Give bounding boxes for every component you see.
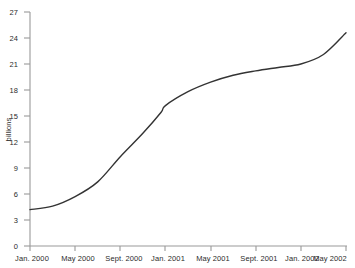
chart-plot-area [0,0,355,268]
x-axis-ticks [30,246,346,251]
x-tick-label-sept-2000: Sept. 2000 [105,254,142,263]
y-tick-label-9: 9 [2,164,18,173]
line-chart: 0 3 6 9 12 15 18 21 24 27 Jan. 2000 May … [0,0,355,268]
x-tick-label-jan-2001: Jan. 2001 [151,254,185,263]
y-axis-title: billions [4,105,13,155]
data-line-billions [30,33,346,210]
x-tick-label-may-2001: May 2001 [196,254,230,263]
y-tick-label-21: 21 [2,60,18,69]
y-tick-label-0: 0 [2,242,18,251]
x-tick-label-jan-2000: Jan. 2000 [15,254,49,263]
x-tick-label-may-2002: May 2002 [313,254,347,263]
x-tick-label-may-2000: May 2000 [61,254,95,263]
y-tick-label-24: 24 [2,34,18,43]
x-tick-label-sept-2001: Sept. 2001 [240,254,277,263]
y-tick-label-27: 27 [2,8,18,17]
y-tick-label-3: 3 [2,216,18,225]
axes [30,12,347,246]
y-tick-label-6: 6 [2,190,18,199]
y-axis-ticks [24,12,30,246]
y-tick-label-18: 18 [2,86,18,95]
